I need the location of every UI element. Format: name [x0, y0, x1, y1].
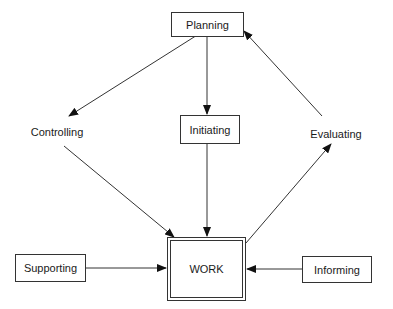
edge-planning-controlling	[69, 32, 202, 116]
node-supporting: Supporting	[15, 254, 86, 282]
edge-work-evaluating	[246, 144, 331, 243]
node-planning: Planning	[171, 12, 244, 37]
edge-evaluating-planning	[244, 31, 322, 116]
node-evaluating: Evaluating	[310, 128, 361, 140]
node-controlling: Controlling	[31, 126, 84, 138]
node-work: WORK	[167, 237, 246, 301]
node-initiating: Initiating	[180, 115, 240, 144]
node-informing: Informing	[302, 256, 372, 283]
work-label: WORK	[170, 240, 243, 298]
edge-controlling-work	[64, 146, 174, 237]
